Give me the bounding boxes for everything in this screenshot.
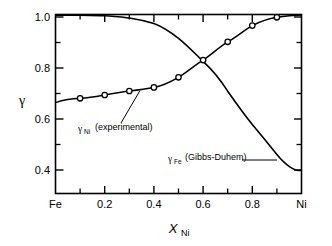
y-tick-label-0.4: 0.4 — [35, 164, 50, 176]
data-point-marker — [200, 57, 205, 62]
gamma-fe-text: (Gibbs-Duhem) — [185, 152, 247, 162]
data-point-marker — [250, 23, 255, 28]
plot-frame — [56, 15, 302, 194]
data-point-marker — [102, 92, 107, 97]
x-tick-label-Ni: Ni — [296, 198, 306, 210]
x-tick-label-0.8: 0.8 — [245, 198, 260, 210]
data-point-marker — [151, 85, 156, 90]
plot-area: 1.0 0.8 0.6 0.4 Fe 0.2 0.4 0.6 0.8 Ni γ … — [0, 0, 332, 246]
data-point-marker — [127, 88, 132, 93]
x-tick-label-0.4: 0.4 — [146, 198, 161, 210]
data-point-marker — [274, 15, 279, 20]
x-tick-label-0.6: 0.6 — [195, 198, 210, 210]
y-tick-label-1.0: 1.0 — [35, 11, 50, 23]
data-point-marker — [225, 39, 230, 44]
data-point-marker — [77, 96, 82, 101]
y-tick-label-0.8: 0.8 — [35, 62, 50, 74]
x-tick-label-Fe: Fe — [49, 198, 62, 210]
gamma-ni-text: (experimental) — [95, 122, 153, 132]
gamma-fe-subscript: Fe — [174, 158, 182, 165]
gamma-ni-symbol: γ — [77, 124, 82, 134]
data-point-marker — [176, 75, 181, 80]
y-tick-label-0.6: 0.6 — [35, 113, 50, 125]
chart-figure: 1.0 0.8 0.6 0.4 Fe 0.2 0.4 0.6 0.8 Ni γ … — [0, 0, 332, 246]
y-axis-title: γ — [18, 93, 25, 108]
x-axis-title-main: X — [168, 221, 179, 236]
x-axis-title-subscript: Ni — [181, 228, 190, 238]
x-tick-label-0.2: 0.2 — [97, 198, 112, 210]
gamma-ni-subscript: Ni — [84, 128, 90, 135]
gamma-fe-symbol: γ — [167, 154, 172, 164]
